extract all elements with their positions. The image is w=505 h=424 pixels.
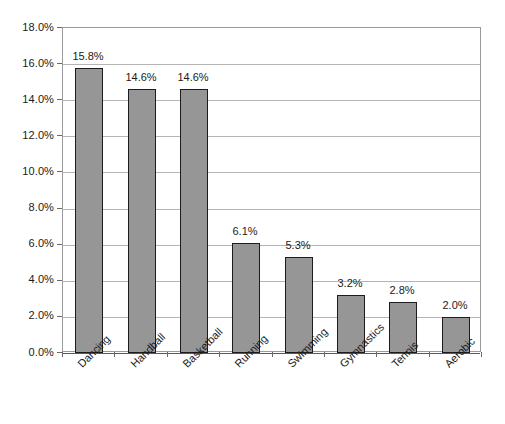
y-axis-tick bbox=[57, 99, 62, 100]
gridline bbox=[63, 317, 480, 318]
bar-value-label: 15.8% bbox=[62, 51, 114, 62]
x-axis-tick bbox=[429, 352, 430, 357]
bar-chart: 0.0%2.0%4.0%6.0%8.0%10.0%12.0%14.0%16.0%… bbox=[0, 0, 505, 424]
bar-value-label: 6.1% bbox=[219, 226, 271, 237]
x-axis-tick bbox=[481, 352, 482, 357]
y-axis-tick bbox=[57, 244, 62, 245]
x-axis-tick bbox=[324, 352, 325, 357]
x-axis-tick bbox=[219, 352, 220, 357]
y-axis-tick-label: 12.0% bbox=[0, 130, 54, 141]
gridline bbox=[63, 172, 480, 173]
bar bbox=[128, 89, 156, 353]
y-axis-tick bbox=[57, 63, 62, 64]
y-axis-tick bbox=[57, 171, 62, 172]
bar-value-label: 14.6% bbox=[115, 72, 167, 83]
y-axis-tick-label: 16.0% bbox=[0, 58, 54, 69]
bar bbox=[180, 89, 208, 353]
gridline bbox=[63, 281, 480, 282]
x-axis-tick bbox=[114, 352, 115, 357]
y-axis-tick-label: 4.0% bbox=[0, 274, 54, 285]
bar-value-label: 2.8% bbox=[376, 285, 428, 296]
y-axis-tick bbox=[57, 316, 62, 317]
y-axis-tick bbox=[57, 27, 62, 28]
y-axis-tick-label: 8.0% bbox=[0, 202, 54, 213]
y-axis-tick bbox=[57, 280, 62, 281]
y-axis-tick-label: 10.0% bbox=[0, 166, 54, 177]
y-axis-tick-label: 0.0% bbox=[0, 347, 54, 358]
gridline bbox=[63, 209, 480, 210]
x-axis-tick bbox=[272, 352, 273, 357]
bar-value-label: 14.6% bbox=[167, 72, 219, 83]
bar bbox=[75, 68, 103, 353]
y-axis-tick-label: 6.0% bbox=[0, 238, 54, 249]
y-axis-tick bbox=[57, 208, 62, 209]
gridline bbox=[63, 64, 480, 65]
x-axis-tick bbox=[167, 352, 168, 357]
bar-value-label: 5.3% bbox=[272, 240, 324, 251]
bar-value-label: 3.2% bbox=[324, 278, 376, 289]
y-axis-tick-label: 2.0% bbox=[0, 310, 54, 321]
gridline bbox=[63, 136, 480, 137]
x-axis-tick bbox=[376, 352, 377, 357]
y-axis-tick-label: 18.0% bbox=[0, 22, 54, 33]
gridline bbox=[63, 100, 480, 101]
x-axis-tick bbox=[62, 352, 63, 357]
y-axis-tick bbox=[57, 135, 62, 136]
bar-value-label: 2.0% bbox=[429, 300, 481, 311]
y-axis-tick-label: 14.0% bbox=[0, 94, 54, 105]
